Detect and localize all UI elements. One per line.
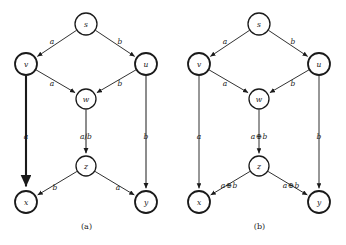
node-v: v — [188, 53, 210, 75]
node-z: z — [249, 156, 269, 176]
edge-label-w-z: a/b — [80, 132, 92, 141]
edge-label-s-u: b — [118, 37, 123, 46]
node-u: u — [135, 53, 157, 75]
node-y: y — [135, 191, 157, 213]
edge-label-s-v: a — [223, 37, 227, 46]
node-label-z: z — [83, 162, 88, 171]
edge-label-w-z: a⊕b — [251, 132, 268, 141]
edge-label-u-y: b — [317, 132, 322, 141]
node-label-z: z — [256, 162, 261, 171]
edge-label-u-w: b — [118, 79, 123, 88]
node-w: w — [249, 89, 269, 109]
node-label-y: y — [143, 198, 149, 207]
edge-v-to-w — [209, 70, 248, 93]
edge-s-to-u — [269, 30, 308, 56]
edge-s-to-u — [96, 30, 135, 56]
edge-label-u-y: b — [144, 132, 149, 141]
edge-label-z-y: a — [116, 183, 120, 192]
node-label-w: w — [83, 95, 90, 104]
node-y: y — [308, 191, 330, 213]
edge-label-v-x: a — [197, 132, 201, 141]
edge-label-z-x: b — [53, 183, 58, 192]
node-label-s: s — [257, 20, 261, 29]
node-label-y: y — [316, 198, 322, 207]
node-x: x — [15, 191, 37, 213]
node-label-u: u — [144, 60, 149, 69]
node-label-s: s — [84, 20, 88, 29]
node-w: w — [76, 89, 96, 109]
caption-b: (b) — [173, 222, 346, 231]
edge-label-v-w: a — [50, 79, 54, 88]
edge-s-to-v — [37, 30, 76, 56]
caption-a: (a) — [0, 222, 173, 231]
edge-u-to-w — [270, 70, 309, 93]
edge-label-s-u: b — [291, 37, 296, 46]
node-z: z — [76, 156, 96, 176]
node-s: s — [75, 13, 97, 35]
edge-v-to-w — [36, 70, 75, 93]
edge-u-to-w — [97, 70, 136, 93]
node-u: u — [308, 53, 330, 75]
edge-label-z-y: a⊕b — [283, 181, 300, 190]
node-label-w: w — [256, 95, 263, 104]
edge-label-u-w: b — [291, 79, 296, 88]
edge-label-z-x: a⊕b — [221, 181, 238, 190]
edge-label-s-v: a — [50, 37, 54, 46]
figure-container: svuwzxy ababaa/bbba (a) svuwzxy ababaa⊕b… — [0, 0, 346, 245]
edge-label-v-x: a — [24, 132, 28, 141]
edge-label-v-w: a — [223, 79, 227, 88]
panel-a: svuwzxy ababaa/bbba (a) — [0, 0, 173, 245]
node-s: s — [248, 13, 270, 35]
panel-b: svuwzxy ababaa⊕bba⊕ba⊕b (b) — [173, 0, 346, 245]
graph-a: svuwzxy ababaa/bbba — [0, 0, 173, 245]
edge-z-to-y — [95, 171, 134, 195]
node-x: x — [188, 191, 210, 213]
edge-s-to-v — [210, 30, 249, 56]
node-label-u: u — [317, 60, 322, 69]
graph-b: svuwzxy ababaa⊕bba⊕ba⊕b — [173, 0, 346, 245]
node-v: v — [15, 53, 37, 75]
